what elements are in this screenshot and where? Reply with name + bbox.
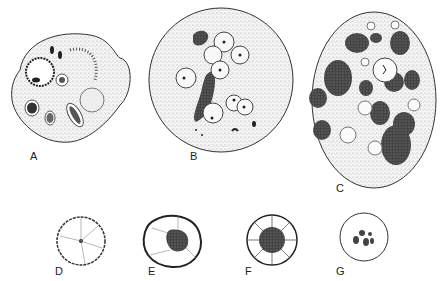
panel-b-cell [149, 8, 293, 152]
panel-a-label: A [30, 150, 38, 162]
panel-g-cell [340, 213, 388, 261]
panel-g-label: G [336, 265, 345, 277]
panel-d-cell [57, 217, 105, 265]
panel-a-cell [12, 34, 131, 142]
cell-illustration: A B [0, 0, 443, 281]
panel-d-label: D [55, 265, 63, 277]
panel-f-cell [247, 215, 297, 265]
panel-c-cell [309, 12, 436, 188]
panel-e-label: E [148, 265, 155, 277]
panel-b-label: B [190, 150, 197, 162]
panel-f-label: F [245, 265, 252, 277]
panel-c-label: C [336, 182, 344, 194]
panel-e-cell [144, 215, 201, 267]
